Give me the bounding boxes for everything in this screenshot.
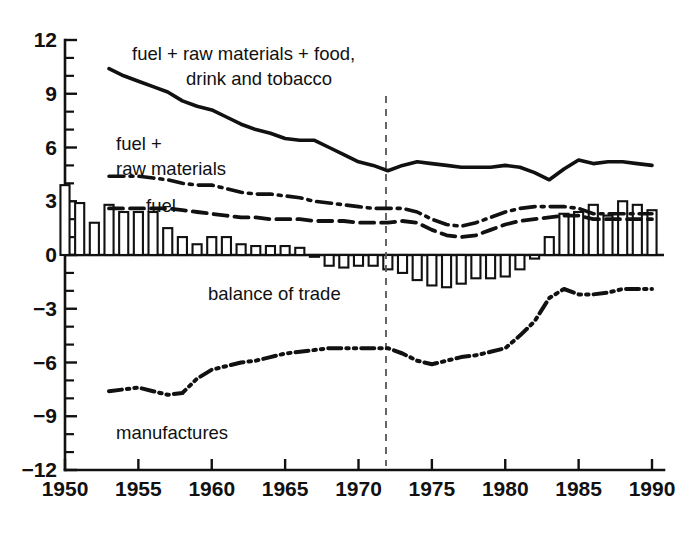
table-row (545, 237, 554, 255)
chart-svg: −12−9−6−3036912 195019551960196519701975… (0, 0, 697, 533)
y-tick-label-0: 0 (45, 243, 57, 266)
x-tick-label-1965: 1965 (262, 477, 309, 500)
table-row (193, 244, 202, 255)
table-row (530, 255, 539, 259)
label-fuelraw-line2: raw materials (116, 158, 226, 179)
table-row (325, 255, 334, 266)
label-fuel: fuel (146, 195, 176, 216)
y-tick-label-6: 6 (45, 136, 57, 159)
table-row (383, 255, 392, 269)
x-tick-label-1990: 1990 (629, 477, 676, 500)
table-row (222, 237, 231, 255)
series-line-manufactures (109, 289, 652, 395)
x-tick-label-1975: 1975 (409, 477, 456, 500)
table-row (251, 246, 260, 255)
table-row (149, 212, 158, 255)
table-row (237, 244, 246, 255)
table-row (134, 212, 143, 255)
table-row (603, 216, 612, 255)
x-tick-label-1950: 1950 (42, 477, 89, 500)
table-row (515, 255, 524, 269)
label-fuelraw-line1: fuel + (116, 133, 162, 154)
table-row (647, 210, 656, 255)
table-row (486, 255, 495, 278)
table-row (413, 255, 422, 280)
x-tick-group: 195019551960196519701975198019851990 (42, 459, 676, 500)
table-row (501, 255, 510, 277)
table-row (266, 246, 275, 255)
x-tick-label-1955: 1955 (115, 477, 162, 500)
y-tick-label--6: −6 (33, 351, 57, 374)
table-row (471, 255, 480, 278)
table-row (281, 246, 290, 255)
table-row (354, 255, 363, 266)
y-tick-label-9: 9 (45, 82, 57, 105)
y-tick-label-3: 3 (45, 189, 57, 212)
label-total-line2: drink and tobacco (186, 68, 332, 89)
table-row (178, 237, 187, 255)
y-tick-label--3: −3 (33, 297, 57, 320)
x-tick-label-1970: 1970 (335, 477, 382, 500)
table-row (163, 228, 172, 255)
table-row (310, 255, 319, 257)
series-line-fuel (109, 208, 652, 237)
table-row (207, 237, 216, 255)
x-tick-label-1985: 1985 (555, 477, 602, 500)
chart-figure: −12−9−6−3036912 195019551960196519701975… (0, 0, 697, 533)
x-tick-label-1980: 1980 (482, 477, 529, 500)
table-row (104, 205, 113, 255)
table-row (442, 255, 451, 287)
label-manufactures: manufactures (116, 422, 228, 443)
table-row (60, 185, 69, 255)
table-row (369, 255, 378, 266)
label-total-line1: fuel + raw materials + food, (132, 43, 355, 64)
table-row (559, 214, 568, 255)
table-row (295, 248, 304, 255)
table-row (457, 255, 466, 284)
table-row (119, 212, 128, 255)
table-row (90, 223, 99, 255)
label-balance-of-trade: balance of trade (208, 283, 341, 304)
table-row (574, 212, 583, 255)
table-row (75, 203, 84, 255)
y-tick-label--9: −9 (33, 404, 57, 427)
series-line-fuel-raw-materials (109, 176, 652, 226)
x-tick-label-1960: 1960 (188, 477, 235, 500)
table-row (398, 255, 407, 273)
table-row (618, 201, 627, 255)
table-row (427, 255, 436, 285)
y-tick-label-12: 12 (34, 28, 57, 51)
table-row (339, 255, 348, 268)
